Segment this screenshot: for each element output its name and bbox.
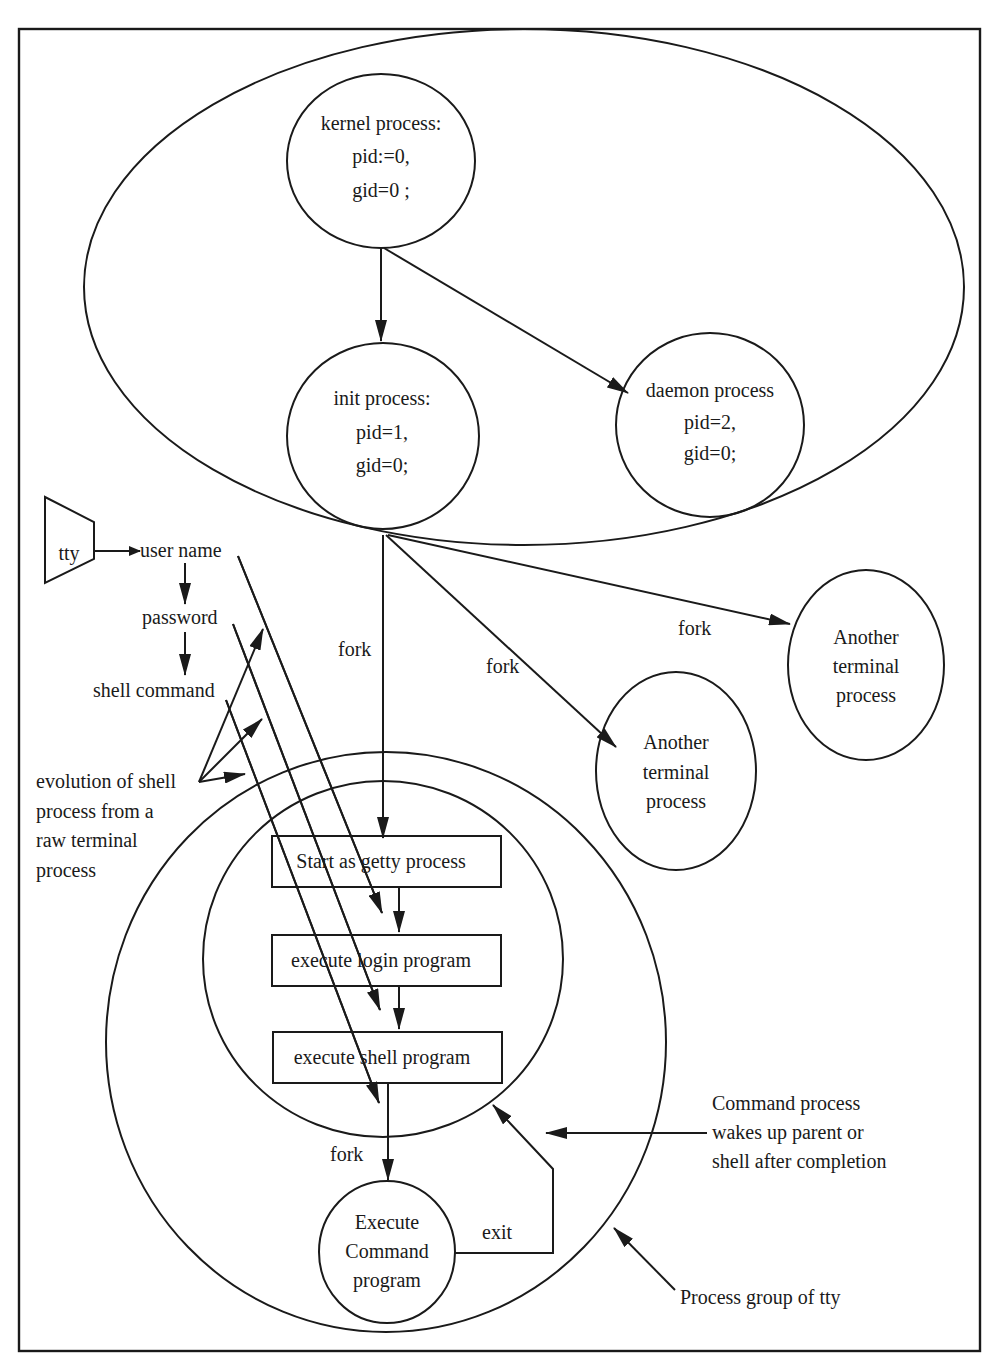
group-pointer-arrow bbox=[614, 1228, 675, 1290]
terminal-b-label-1: Another bbox=[643, 731, 709, 753]
edge-init-terminal-a bbox=[388, 535, 790, 624]
init-label-2: pid=1, bbox=[356, 421, 408, 444]
exit-label: exit bbox=[482, 1221, 512, 1243]
init-label-1: init process: bbox=[333, 387, 430, 410]
daemon-label-3: gid=0; bbox=[684, 442, 736, 465]
fork-label-getty: fork bbox=[338, 638, 371, 660]
shell-box-label: execute shell program bbox=[294, 1046, 471, 1069]
kernel-label-1: kernel process: bbox=[321, 112, 442, 135]
step-user-name: user name bbox=[140, 539, 222, 561]
system-ellipse bbox=[84, 29, 964, 545]
command-label-3: program bbox=[353, 1269, 421, 1292]
daemon-label-1: daemon process bbox=[646, 379, 775, 402]
fork-label-terminal-b: fork bbox=[486, 655, 519, 677]
evolution-label-4: process bbox=[36, 859, 96, 882]
evolution-label-2: process from a bbox=[36, 800, 154, 823]
login-box-label: execute login program bbox=[291, 949, 471, 972]
tty-device bbox=[45, 497, 94, 583]
evolution-label-1: evolution of shell bbox=[36, 770, 176, 792]
process-diagram: kernel process: pid:=0, gid=0 ; init pro… bbox=[0, 0, 996, 1366]
fork-label-terminal-a: fork bbox=[678, 617, 711, 639]
wakeup-label-2: wakes up parent or bbox=[712, 1121, 864, 1144]
kernel-label-2: pid:=0, bbox=[352, 145, 409, 168]
terminal-a-label-1: Another bbox=[833, 626, 899, 648]
wakeup-label-3: shell after completion bbox=[712, 1150, 886, 1173]
terminal-a-label-2: terminal bbox=[833, 655, 900, 677]
group-label: Process group of tty bbox=[680, 1286, 841, 1309]
kernel-label-3: gid=0 ; bbox=[352, 179, 409, 202]
edge-kernel-daemon bbox=[384, 248, 628, 393]
terminal-b-label-2: terminal bbox=[643, 761, 710, 783]
edge-shellcmd-command-overlay bbox=[226, 700, 379, 1103]
command-label-2: Command bbox=[345, 1240, 428, 1262]
evolution-label-3: raw terminal bbox=[36, 829, 138, 851]
tty-label: tty bbox=[58, 542, 79, 565]
terminal-a-label-3: process bbox=[836, 684, 896, 707]
fork-label-command: fork bbox=[330, 1143, 363, 1165]
getty-box-label: Start as getty process bbox=[296, 850, 466, 873]
edge-init-terminal-b bbox=[386, 535, 616, 747]
step-shell-command: shell command bbox=[93, 679, 215, 701]
wakeup-label-1: Command process bbox=[712, 1092, 861, 1115]
step-password: password bbox=[142, 606, 218, 629]
evolution-arrow-1 bbox=[199, 629, 263, 782]
command-label-1: Execute bbox=[355, 1211, 420, 1233]
init-label-3: gid=0; bbox=[356, 454, 408, 477]
daemon-label-2: pid=2, bbox=[684, 411, 736, 434]
terminal-b-label-3: process bbox=[646, 790, 706, 813]
